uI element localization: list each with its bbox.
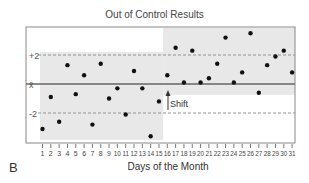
x-tick-label: 31 — [289, 150, 297, 157]
data-point — [223, 35, 227, 39]
data-point — [173, 46, 177, 50]
x-tick-label: 26 — [247, 150, 255, 157]
data-point — [82, 73, 86, 77]
x-tick-label: 29 — [272, 150, 280, 157]
data-point — [74, 92, 78, 96]
x-tick-label: 30 — [280, 150, 288, 157]
x-tick-label: 24 — [230, 150, 238, 157]
x-axis-title: Days of the Month — [118, 161, 218, 172]
data-point — [198, 80, 202, 84]
x-tick-label: 15 — [155, 150, 163, 157]
shift-label: Shift — [170, 99, 189, 109]
data-point — [215, 62, 219, 66]
x-tick-label: 20 — [197, 150, 205, 157]
x-tick-label: 23 — [222, 150, 230, 157]
x-tick-label: 4 — [66, 150, 70, 157]
y-label: -2 — [29, 109, 37, 119]
control-chart: +2x̄-2 Shift 123456789101112131415161718… — [0, 0, 309, 183]
x-tick-label: 19 — [189, 150, 197, 157]
data-point — [165, 73, 169, 77]
x-tick-label: 21 — [205, 150, 213, 157]
x-tick-label: 8 — [99, 150, 103, 157]
data-point — [207, 76, 211, 80]
shaded-region-after — [163, 28, 295, 95]
x-tick-label: 27 — [255, 150, 263, 157]
x-tick-label: 1 — [41, 150, 45, 157]
x-tick-label: 11 — [122, 150, 129, 157]
data-point — [273, 54, 277, 58]
x-tick-label: 14 — [147, 150, 155, 157]
data-point — [99, 62, 103, 66]
x-tick-label: 25 — [239, 150, 247, 157]
x-tick-label: 9 — [107, 150, 111, 157]
data-point — [107, 96, 111, 100]
x-tick-label: 12 — [131, 150, 139, 157]
data-point — [290, 70, 294, 74]
data-point — [148, 134, 152, 138]
data-point — [140, 86, 144, 90]
x-tick-label: 10 — [114, 150, 122, 157]
y-label: +2 — [29, 51, 39, 61]
x-tick-label: 22 — [214, 150, 222, 157]
data-point — [182, 80, 186, 84]
x-tick-label: 5 — [74, 150, 78, 157]
data-point — [257, 91, 261, 95]
data-point — [157, 99, 161, 103]
data-point — [124, 112, 128, 116]
data-point — [40, 127, 44, 131]
x-tick-label: 2 — [49, 150, 53, 157]
x-tick-label: 13 — [139, 150, 147, 157]
data-point — [282, 48, 286, 52]
x-tick-label: 18 — [180, 150, 188, 157]
x-tick-label: 3 — [57, 150, 61, 157]
y-label: x̄ — [29, 80, 34, 90]
data-point — [265, 63, 269, 67]
data-point — [240, 70, 244, 74]
x-tick-label: 6 — [82, 150, 86, 157]
data-point — [190, 48, 194, 52]
x-tick-label: 16 — [164, 150, 172, 157]
x-tick-label: 28 — [264, 150, 272, 157]
panel-label: B — [9, 160, 18, 175]
data-point — [49, 95, 53, 99]
data-point — [115, 86, 119, 90]
data-point — [57, 120, 61, 124]
data-point — [65, 63, 69, 67]
data-point — [232, 80, 236, 84]
data-point — [132, 69, 136, 73]
x-tick-label: 17 — [172, 150, 180, 157]
data-point — [90, 122, 94, 126]
x-tick-label: 7 — [90, 150, 94, 157]
data-point — [248, 31, 252, 35]
x-axis-ticks: 1234567891011121314151617181920212223242… — [41, 144, 297, 157]
